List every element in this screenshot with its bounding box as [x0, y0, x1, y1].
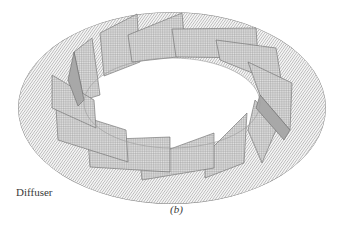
subfigure-label: (b) — [170, 203, 183, 215]
component-label: Diffuser — [16, 186, 52, 198]
